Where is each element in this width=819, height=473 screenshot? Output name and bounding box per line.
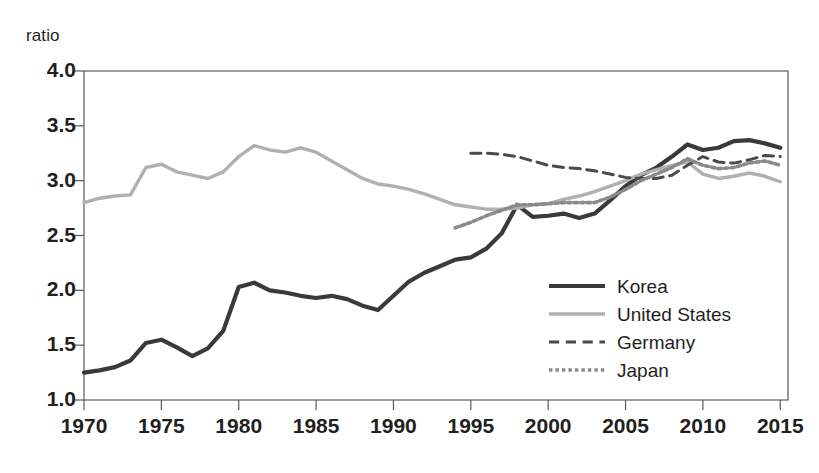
legend-item-japan[interactable]: Japan: [548, 356, 788, 384]
legend-item-label: Germany: [617, 333, 695, 352]
legend-item-label: United States: [617, 305, 731, 324]
legend-swatch-icon: [548, 363, 606, 377]
y-axis-tick-label: 4.0: [24, 58, 76, 82]
legend-item-korea[interactable]: Korea: [548, 272, 788, 300]
legend-item-label: Japan: [617, 361, 669, 380]
legend-swatch-icon: [548, 335, 606, 349]
legend-item-germany[interactable]: Germany: [548, 328, 788, 356]
x-axis-tick-label: 2010: [680, 414, 727, 438]
legend-swatch-icon: [548, 279, 606, 293]
y-axis-tick-label: 2.0: [24, 277, 76, 301]
chart-legend: KoreaUnited StatesGermanyJapan: [548, 272, 788, 384]
x-axis-tick-label: 1970: [61, 414, 108, 438]
line-chart: ratio 1.01.52.02.53.03.54.0 197019751980…: [0, 0, 819, 473]
legend-swatch-icon: [548, 307, 606, 321]
x-axis-tick-label: 2015: [757, 414, 804, 438]
y-axis-tick-label: 2.5: [24, 223, 76, 247]
x-axis-tick-label: 1985: [293, 414, 340, 438]
y-axis-tick-label: 3.0: [24, 168, 76, 192]
x-axis-tick-label: 1980: [215, 414, 262, 438]
legend-item-label: Korea: [617, 277, 668, 296]
legend-item-united-states[interactable]: United States: [548, 300, 788, 328]
x-axis-tick-label: 1990: [370, 414, 417, 438]
y-axis-tick-label: 1.5: [24, 332, 76, 356]
y-axis-tick-label: 3.5: [24, 113, 76, 137]
series-line-japan: [455, 159, 780, 228]
x-axis-tick-label: 1995: [447, 414, 494, 438]
y-axis-tick-label: 1.0: [24, 387, 76, 411]
x-axis-tick-label: 2000: [525, 414, 572, 438]
plot-area: [0, 0, 819, 473]
x-axis-tick-label: 1975: [138, 414, 185, 438]
x-axis-tick-label: 2005: [602, 414, 649, 438]
y-axis-unit-label: ratio: [26, 26, 60, 46]
